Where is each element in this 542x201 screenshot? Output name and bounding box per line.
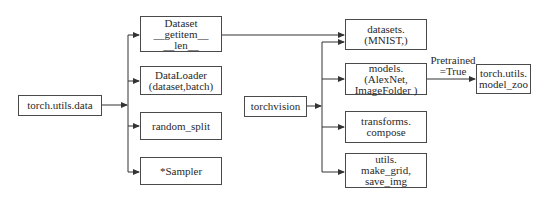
edge-label-line: =True (428, 66, 478, 77)
node-label: __getitem__ (154, 29, 209, 40)
node-label: torchvision (251, 101, 301, 112)
node-torch-utils-data: torch.utils.data (18, 95, 102, 116)
node-label: DataLoader (155, 70, 207, 81)
node-label: model_zoo (479, 79, 528, 90)
node-label: ImageFolder ) (355, 85, 418, 96)
node-dataloader: DataLoader (dataset,batch) (140, 66, 222, 95)
node-utils: utils. make_grid, save_img (345, 153, 427, 188)
node-random-split: random_split (140, 112, 222, 140)
node-torchvision: torchvision (244, 96, 307, 117)
node-label: (dataset,batch) (149, 81, 213, 92)
node-sampler: *Sampler (140, 157, 222, 185)
node-models: models. (AlexNet, ImageFolder ) (345, 63, 427, 95)
node-label: compose (366, 127, 405, 138)
node-label: datasets. (367, 24, 405, 35)
node-datasets: datasets. (MNIST,) (345, 19, 427, 50)
node-label: (AlexNet, (364, 74, 408, 85)
node-label: torch.utils.data (27, 100, 92, 111)
node-label: save_img (365, 176, 407, 187)
node-model-zoo: torch.utils. model_zoo (476, 64, 531, 94)
node-label: Dataset (165, 18, 198, 29)
node-label: models. (369, 63, 404, 74)
node-dataset: Dataset __getitem__ __len__ (140, 16, 222, 52)
node-label: (MNIST,) (364, 35, 407, 46)
node-transforms: transforms. compose (345, 111, 427, 143)
node-label: random_split (152, 121, 210, 132)
node-label: __len__ (163, 40, 198, 51)
node-label: *Sampler (160, 166, 202, 177)
edge-label-pretrained: Pretrained =True (428, 55, 478, 77)
